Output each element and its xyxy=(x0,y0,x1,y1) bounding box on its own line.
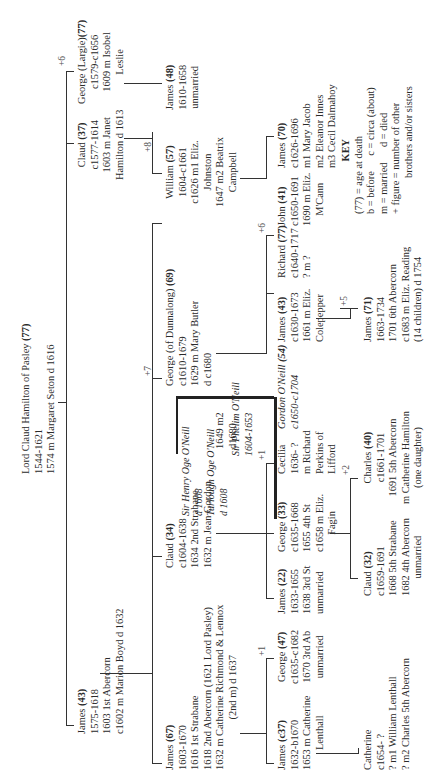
person-george-dunnalong-69: George (of Dunnalong) (69) c1610-1679 16… xyxy=(164,269,214,386)
person-william-57: William (57) 1604-c1661 c1626 m1 Eliz. J… xyxy=(164,137,240,207)
connector xyxy=(152,223,162,224)
person-claud-32: Claud (32) c1659-1691 1668 5th Strabane … xyxy=(362,518,425,596)
connector xyxy=(266,235,274,236)
person-james-43: James (43) 1575-1618 1603 1st Abercorn c… xyxy=(76,608,126,734)
connector xyxy=(350,479,351,579)
connector xyxy=(124,138,152,139)
connector xyxy=(240,178,266,179)
connector xyxy=(240,733,266,734)
connector xyxy=(152,173,162,174)
connector xyxy=(266,137,267,179)
connector xyxy=(152,132,153,174)
connector xyxy=(350,578,358,579)
connector xyxy=(266,763,274,764)
person-richard-77: Richard (77) c1640-1717 ? m ? xyxy=(276,225,314,278)
connector xyxy=(124,83,162,84)
connector xyxy=(216,533,266,534)
person-james-48: James (48) 1610-1658 unmarried xyxy=(164,65,202,110)
connector xyxy=(58,402,66,403)
person-claud-37: Claud (37) c1577-1614 1603 m Janet Hamil… xyxy=(76,110,126,180)
person-catherine: Catherine c1654- ? ? m1 William Lenthall… xyxy=(362,658,412,770)
connector xyxy=(340,308,358,309)
siblings-note: +8 xyxy=(142,142,155,152)
oneill-box xyxy=(176,398,178,454)
root-marriage: 1574 m Margaret Seton d 1616 xyxy=(45,324,58,474)
person-james-c37: James (c37) 1632-b1670 1653 m Catherine … xyxy=(276,696,326,770)
connector xyxy=(266,236,267,354)
person-george-47: George (47) c1635-c1682 1670 3rd Ab unma… xyxy=(276,630,326,684)
connector xyxy=(216,353,266,354)
person-james-67: James (67) 1603-1670 1616 1st Strabane 1… xyxy=(164,605,240,770)
person-james-70: James (70) c1626-1696 m1 Mary Jacob m2 E… xyxy=(276,84,339,168)
person-george-33: George (33) c1635-1668 1655 4th St c1658… xyxy=(276,494,339,552)
siblings-note: +1 xyxy=(256,646,269,656)
person-charles-40: Charles (40) c1661-1701 1691 5th Abercor… xyxy=(362,411,425,504)
connector xyxy=(152,556,162,557)
connector xyxy=(266,293,274,294)
siblings-note: +1 xyxy=(256,450,269,460)
person-gordon-oneill-54: Gordon O'Neill (54) c1650-c1704 xyxy=(276,345,301,429)
person-james-22: James (22) 1633-1655 1638 3rd St unmarri… xyxy=(276,566,326,615)
connector xyxy=(330,533,350,534)
connector xyxy=(316,753,358,754)
connector xyxy=(350,478,358,479)
connector xyxy=(266,136,274,137)
person-george-largie-77: George (Largie)(77) c1579-c1656 1609 m I… xyxy=(76,20,126,104)
connector xyxy=(66,72,67,726)
connector xyxy=(350,309,351,319)
connector xyxy=(152,224,153,764)
key-title: KEY xyxy=(340,86,353,214)
legend-key: KEY (77) = age at death b = before c = c… xyxy=(340,86,416,214)
person-cecilia: Cecilia 1636- ? m Richard Perkins of Lif… xyxy=(276,430,339,474)
connector xyxy=(100,673,152,674)
connector xyxy=(66,725,74,726)
connector xyxy=(152,763,162,764)
root-name: Lord Claud Hamilton of Pasley xyxy=(20,344,31,474)
connector xyxy=(66,71,74,72)
connector xyxy=(266,533,274,534)
siblings-note: +2 xyxy=(340,465,353,475)
connector xyxy=(266,464,267,599)
connector xyxy=(266,659,267,764)
connector xyxy=(266,658,274,659)
connector xyxy=(266,598,274,599)
connector xyxy=(316,318,350,319)
siblings-note: +7 xyxy=(142,366,155,376)
connector xyxy=(66,143,74,144)
siblings-note: +6 xyxy=(56,56,69,66)
connector xyxy=(358,748,359,754)
person-sir-phelim-oneill: Sir Phelim O'Neill 1604-1653 xyxy=(230,382,255,456)
connector xyxy=(176,396,274,399)
siblings-note: +5 xyxy=(338,296,351,306)
root-age: (77) xyxy=(20,324,31,341)
person-james-43-b: James (43) c1630-1673 1661 m Eliz. Colep… xyxy=(276,289,326,342)
root-person: Lord Claud Hamilton of Pasley (77) 1544-… xyxy=(20,324,58,474)
siblings-note: +6 xyxy=(256,223,269,233)
connector xyxy=(152,378,162,379)
person-john-41: John (41) c1650-1691 1690 m Eliz. M'Cann xyxy=(276,173,326,226)
connector xyxy=(266,463,274,464)
oneill-family: Sir Henry Oge O'Neill d 1608 Turlough Og… xyxy=(180,426,230,516)
person-james-71: James (71) 1663-1734 1701 6th Abercorn c… xyxy=(362,247,425,342)
family-tree-diagram: Lord Claud Hamilton of Pasley (77) 1544-… xyxy=(0,0,429,774)
root-dates: 1544-1621 xyxy=(33,324,46,474)
